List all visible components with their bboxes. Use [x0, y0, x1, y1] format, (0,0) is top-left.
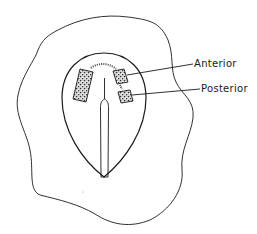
left-stippled-block: [73, 69, 93, 102]
posterior-label: Posterior: [201, 83, 248, 95]
diagram-canvas: [0, 0, 257, 234]
posterior-block: [118, 90, 133, 103]
dotted-arc: [91, 64, 116, 69]
posterior-leader-line: [132, 89, 200, 95]
speck: [82, 191, 83, 192]
anterior-leader-line: [127, 64, 193, 75]
dotted-connector: [120, 85, 122, 89]
anterior-label: Anterior: [194, 58, 237, 70]
inner-oval: [62, 53, 146, 177]
central-slot: [101, 99, 109, 177]
outer-outline: [17, 16, 193, 224]
anterior-block: [113, 69, 128, 84]
